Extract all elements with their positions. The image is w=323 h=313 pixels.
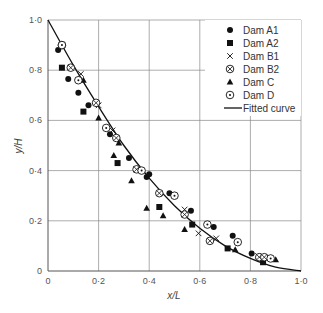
filled-circle-marker [249,250,255,256]
x-tick-label: 0·6 [193,276,206,286]
filled-triangle-marker [95,114,102,120]
filled-circle-marker [75,90,81,96]
filled-square-marker [80,109,86,115]
filled-circle-marker [146,171,152,177]
x-tick-label: 0·4 [143,276,156,286]
x-axis-label: x/L [166,290,180,301]
x-tick-label: 0·2 [92,276,105,286]
legend-label: Dam D [243,90,274,101]
filled-circle-marker [126,155,132,161]
legend-label: Dam B1 [243,51,280,62]
filled-triangle-marker [110,152,117,158]
circle-dot-marker [171,192,179,200]
y-tick-label: 0 [37,266,42,276]
circle-cross-marker [67,64,75,72]
filled-circle-marker [227,27,233,33]
legend-label: Fitted curve [243,103,296,114]
legend-label: Dam B2 [243,64,280,75]
scatter-chart: 000·20·20·40·40·60·60·80·81·01·0 x/L y/H… [0,0,323,313]
filled-square-marker [225,245,231,251]
filled-square-marker [115,160,121,166]
x-tick-label: 0·8 [244,276,257,286]
legend: Dam A1Dam A2Dam B1Dam B2Dam CDam DFitted… [205,20,301,116]
circle-dot-marker [102,124,110,132]
filled-circle-marker [65,76,71,82]
circle-dot-marker [226,91,234,99]
y-axis-label: y/H [13,138,24,155]
legend-label: Dam A2 [243,38,279,49]
circle-cross-marker [156,189,164,197]
y-tick-label: 0·8 [29,65,42,75]
filled-triangle-marker [232,246,239,252]
x-tick-label: 0 [45,276,50,286]
y-tick-label: 0·6 [29,115,42,125]
filled-square-marker [189,222,195,228]
legend-label: Dam A1 [243,25,279,36]
circle-cross-marker [206,237,214,245]
x-tick-label: 1·0 [294,276,307,286]
legend-label: Dam C [243,77,274,88]
filled-circle-marker [188,208,194,214]
circle-cross-marker [181,211,189,219]
filled-circle-marker [230,233,236,239]
circle-dot-marker [138,167,146,175]
filled-triangle-marker [128,177,135,183]
y-tick-label: 0·2 [29,216,42,226]
filled-square-marker [227,40,233,46]
circle-dot-marker [58,41,66,49]
filled-triangle-marker [160,212,167,218]
filled-circle-marker [107,131,113,137]
circle-dot-marker [75,76,83,84]
circle-dot-marker [204,221,212,229]
circle-dot-marker [267,255,275,263]
circle-dot-marker [234,238,242,246]
y-tick-label: 1·0 [29,15,42,25]
circle-cross-marker [226,65,234,73]
circle-cross-marker [92,99,100,107]
filled-circle-marker [85,102,91,108]
filled-square-marker [59,65,65,71]
y-tick-label: 0·4 [29,166,42,176]
filled-triangle-marker [181,226,188,232]
filled-square-marker [156,204,162,210]
cross-marker [196,231,202,237]
